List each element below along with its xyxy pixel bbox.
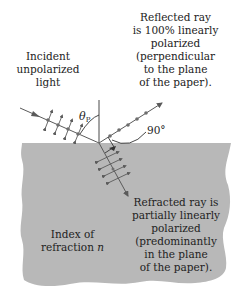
index-of-refraction-label: Index of refraction n <box>30 228 115 254</box>
theta-symbol: θ <box>79 110 86 123</box>
theta-subscript: P <box>86 116 91 124</box>
polarization-diagram: Incident unpolarized light Reflected ray… <box>0 0 234 302</box>
index-symbol-n: n <box>97 241 104 253</box>
reflected-ray-label: Reflected ray is 100% linearly polarized… <box>117 11 234 89</box>
right-angle-label: 90° <box>147 124 166 136</box>
refracted-ray-label: Refracted ray is partially linearly pola… <box>120 196 232 274</box>
ninety-degree-arc <box>112 132 146 144</box>
incident-polarization-arrows <box>45 111 82 142</box>
brewster-angle-label: θP <box>79 110 90 124</box>
incident-light-label: Incident unpolarized light <box>2 50 94 89</box>
index-label-text: Index of refraction <box>41 228 97 253</box>
incident-arrowhead-icon <box>31 111 40 117</box>
refracted-polarization-dots <box>112 168 115 171</box>
